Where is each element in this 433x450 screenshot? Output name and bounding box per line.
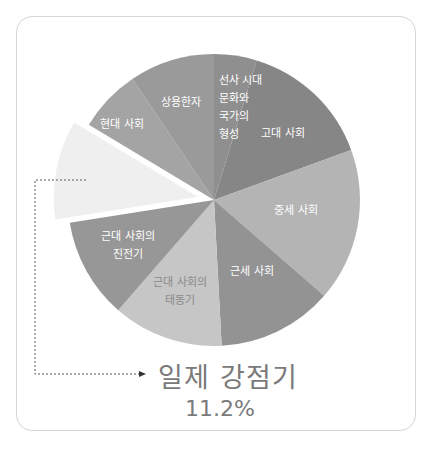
slice-label: 상용한자	[161, 96, 201, 109]
callout-title: 일제 강점기	[158, 356, 298, 395]
slice-label: 중세 사회	[274, 204, 318, 217]
slice-label: 근세 사회	[230, 265, 274, 278]
slice-label: 고대 사회	[261, 127, 305, 140]
callout-value: 11.2%	[185, 396, 255, 421]
slice-label: 현대 사회	[100, 118, 144, 131]
arrow-right-icon	[139, 371, 146, 377]
